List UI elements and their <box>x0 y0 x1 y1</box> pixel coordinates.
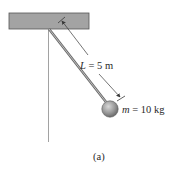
ceiling-support <box>9 13 89 29</box>
mass-value: 10 kg <box>141 104 165 115</box>
length-equals: = <box>86 60 97 71</box>
figure-caption: (a) <box>93 151 105 163</box>
mass-equals: = <box>130 104 141 115</box>
dimension-line-lower <box>99 74 120 97</box>
pendulum-bob <box>102 101 118 117</box>
length-label: L = 5 m <box>79 60 113 71</box>
dimension-tick-bottom <box>117 96 125 101</box>
length-value: 5 m <box>97 60 113 71</box>
pendulum-diagram: L = 5 m m = 10 kg (a) <box>0 0 175 170</box>
mass-label: m = 10 kg <box>122 104 165 115</box>
